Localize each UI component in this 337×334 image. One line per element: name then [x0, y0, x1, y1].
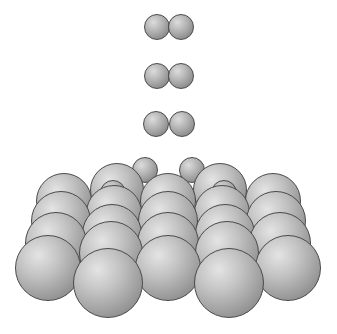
molecule-atom	[144, 63, 170, 89]
surface-atom	[255, 235, 321, 301]
molecule-atom	[144, 14, 170, 40]
surface-atom	[15, 235, 81, 301]
surface-atom	[194, 248, 264, 318]
surface-atom	[135, 235, 201, 301]
molecule-atom	[168, 63, 194, 89]
molecule-atom	[168, 14, 194, 40]
molecule-atom	[143, 111, 169, 137]
surface-atom	[73, 248, 143, 318]
molecule-atom	[169, 111, 195, 137]
adsorption-diagram	[0, 0, 337, 334]
